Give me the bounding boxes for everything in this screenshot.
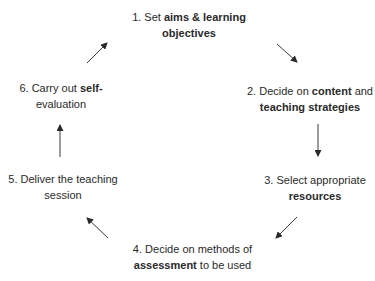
- step-5-deliver-session: 5. Deliver the teaching session: [0, 171, 128, 203]
- step-2-decide-content: 2. Decide on content and teaching strate…: [240, 83, 375, 115]
- step-1-line-2: objectives: [119, 25, 259, 41]
- step-4-assessment: 4. Decide on methods of assessment to be…: [115, 241, 270, 273]
- step-6-line-1: 6. Carry out self-: [0, 80, 122, 96]
- arrow-3-to-4: [276, 217, 297, 238]
- step-3-line-2: resources: [250, 188, 375, 204]
- step-1-set-aims: 1. Set aims & learning objectives: [119, 9, 259, 41]
- step-4-line-1: 4. Decide on methods of: [115, 241, 270, 257]
- step-4-line-2: assessment to be used: [115, 257, 270, 273]
- step-2-line-2: teaching strategies: [240, 99, 375, 115]
- step-3-select-resources: 3. Select appropriate resources: [250, 172, 375, 204]
- step-6-line-2: evaluation: [0, 96, 122, 112]
- arrow-6-to-1: [87, 43, 107, 63]
- step-5-line-1: 5. Deliver the teaching: [0, 171, 128, 187]
- cycle-arrows: [0, 0, 375, 281]
- arrow-1-to-2: [277, 44, 297, 62]
- step-6-self-evaluation: 6. Carry out self- evaluation: [0, 80, 122, 112]
- teaching-cycle-diagram: 1. Set aims & learning objectives 2. Dec…: [0, 0, 375, 281]
- step-3-line-1: 3. Select appropriate: [250, 172, 375, 188]
- arrow-4-to-5: [87, 218, 108, 238]
- step-1-line-1: 1. Set aims & learning: [119, 9, 259, 25]
- step-2-line-1: 2. Decide on content and: [240, 83, 375, 99]
- step-5-line-2: session: [0, 187, 128, 203]
